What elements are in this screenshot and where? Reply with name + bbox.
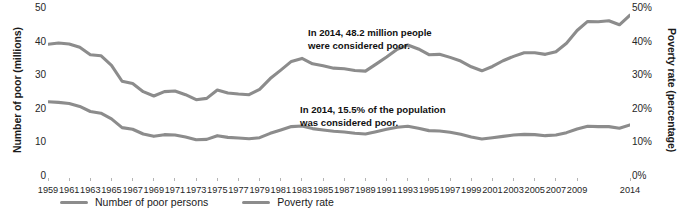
x-axis-tick-label: 1961 [59,185,79,195]
y-axis-right-tick-label: 50% [632,2,678,13]
y-axis-left-tick-label: 30 [0,69,46,80]
chart-legend: Number of poor personsPoverty rate [60,196,334,208]
y-axis-right-tick-label: 40% [632,36,678,47]
x-axis-tick-mark [428,178,429,181]
x-axis-tick-label: 2007 [546,185,566,195]
x-axis-tick-label: 1987 [334,185,354,195]
x-axis-tick-label: 1993 [398,185,418,195]
x-axis-tick-mark [217,178,218,181]
legend-item-label: Poverty rate [277,196,334,208]
annotation-poor-count: In 2014, 48.2 million people were consid… [308,27,432,52]
x-axis-tick-mark [301,178,302,181]
x-axis-tick-mark [238,178,239,181]
x-axis-tick-mark [259,178,260,181]
y-axis-right-ticks: 0%10%20%30%40%50% [632,0,678,213]
x-axis-tick-mark [386,178,387,181]
y-axis-left-tick-label: 0 [0,170,46,181]
x-axis-tick-mark [111,178,112,181]
x-axis-tick-mark [555,178,556,181]
x-axis-tick-label: 1963 [80,185,100,195]
poverty-chart-figure: Number of poor (millions) Poverty rate (… [0,0,682,213]
x-axis-tick-label: 1985 [313,185,333,195]
x-axis-tick-mark [513,178,514,181]
x-axis-tick-mark [407,178,408,181]
x-axis-tick-label: 1975 [207,185,227,195]
x-axis-tick-label: 1989 [355,185,375,195]
legend-swatch-icon [242,201,270,204]
x-axis-tick-label: 1983 [292,185,312,195]
x-axis-tick-mark [534,178,535,181]
x-axis-tick-label: 1967 [122,185,142,195]
y-axis-right-tick-label: 10% [632,136,678,147]
legend-item[interactable]: Poverty rate [242,196,334,208]
x-axis-tick-mark [48,178,49,181]
x-axis-tick-mark [132,178,133,181]
x-axis-tick-mark [577,178,578,181]
y-axis-left-tick-label: 20 [0,103,46,114]
y-axis-left-tick-label: 10 [0,136,46,147]
x-axis-tick-mark [196,178,197,181]
x-axis-tick-label: 1991 [376,185,396,195]
y-axis-right-tick-label: 0% [632,170,678,181]
y-axis-right-tick-label: 30% [632,69,678,80]
x-axis-tick-label: 2001 [482,185,502,195]
y-axis-left-ticks: 01020304050 [0,0,46,213]
x-axis-tick-label: 1981 [271,185,291,195]
x-axis-tick-mark [471,178,472,181]
x-axis-tick-mark [323,178,324,181]
x-axis-tick-mark [344,178,345,181]
x-axis-tick-label: 2009 [567,185,587,195]
x-axis-tick-mark [492,178,493,181]
legend-swatch-icon [60,201,88,204]
legend-item[interactable]: Number of poor persons [60,196,208,208]
x-axis-tick-label: 2003 [503,185,523,195]
x-axis-tick-label: 1973 [186,185,206,195]
x-axis-tick-mark [450,178,451,181]
y-axis-right-tick-label: 20% [632,103,678,114]
y-axis-left-tick-label: 50 [0,2,46,13]
x-axis-tick-mark [174,178,175,181]
x-axis-tick-mark [630,178,631,181]
annotation-poverty-rate: In 2014, 15.5% of the population was con… [300,104,446,129]
x-axis-tick-label: 1969 [144,185,164,195]
x-axis-tick-label: 1965 [101,185,121,195]
x-axis-tick-mark [365,178,366,181]
y-axis-left-tick-label: 40 [0,36,46,47]
x-axis-tick-mark [280,178,281,181]
legend-item-label: Number of poor persons [95,196,208,208]
x-axis-tick-mark [153,178,154,181]
x-axis-tick-label: 1995 [419,185,439,195]
x-axis-tick-label: 1997 [440,185,460,195]
x-axis-tick-label: 1971 [165,185,185,195]
x-axis-tick-label: 2005 [525,185,545,195]
x-axis-tick-mark [69,178,70,181]
x-axis-tick-mark [90,178,91,181]
x-axis-tick-label: 1979 [249,185,269,195]
x-axis-tick-label: 1977 [228,185,248,195]
x-axis-tick-label: 1999 [461,185,481,195]
